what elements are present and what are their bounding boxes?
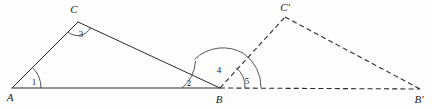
geometry-canvas: A B C C' B' 1 2 3 4 5	[0, 0, 432, 109]
angle-label-5: 5	[245, 76, 250, 86]
angle-arc-4	[195, 48, 244, 60]
vertex-label-A: A	[6, 91, 14, 103]
segment-B-Bprime	[220, 88, 420, 89]
segment-Cprime-Bprime	[285, 17, 420, 89]
vertex-label-C-prime: C'	[280, 1, 290, 13]
angle-label-2: 2	[187, 78, 192, 88]
angle-label-3: 3	[79, 29, 84, 39]
segment-CB	[78, 22, 220, 88]
geometry-figure: A B C C' B' 1 2 3 4 5	[0, 0, 432, 109]
vertex-label-C: C	[70, 3, 78, 15]
segment-AC	[12, 22, 78, 88]
segment-B-Cprime	[220, 17, 285, 88]
angle-arc-5-inner	[236, 68, 245, 88]
angle-label-1: 1	[32, 77, 37, 87]
angle-label-4: 4	[217, 65, 222, 75]
vertex-label-B-prime: B'	[414, 93, 424, 105]
vertex-label-B: B	[216, 93, 223, 105]
